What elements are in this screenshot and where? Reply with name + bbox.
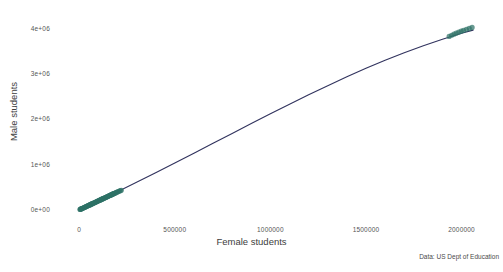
y-tick-label: 4e+06 — [6, 25, 50, 32]
x-tick-label: 1000000 — [235, 226, 305, 233]
chart-figure: Male vs female enrollment Male students … — [0, 0, 503, 272]
source-note: Data: US Dept of Education — [419, 253, 499, 260]
fit-line — [79, 30, 473, 210]
x-tick-label: 0 — [44, 226, 114, 233]
y-axis-title: Male students — [8, 72, 19, 152]
scatter-point — [119, 188, 124, 193]
y-tick-label: 0e+00 — [6, 206, 50, 213]
scatter-points — [77, 25, 474, 212]
x-tick-label: 500000 — [140, 226, 210, 233]
x-axis-title: Female students — [0, 236, 503, 247]
x-tick-label: 2000000 — [427, 226, 497, 233]
scatter-point — [470, 25, 475, 30]
y-tick-label: 2e+06 — [6, 115, 50, 122]
x-tick-label: 1500000 — [331, 226, 401, 233]
y-tick-label: 3e+06 — [6, 70, 50, 77]
y-tick-label: 1e+06 — [6, 161, 50, 168]
